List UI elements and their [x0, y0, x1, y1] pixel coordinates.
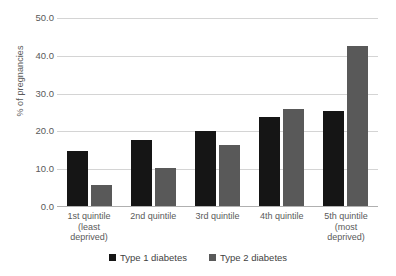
y-tick-label: 30.0: [20, 89, 54, 99]
bar[interactable]: [195, 131, 216, 207]
legend-item[interactable]: Type 2 diabetes: [209, 252, 287, 263]
bar[interactable]: [259, 117, 280, 207]
legend-swatch-icon: [209, 254, 216, 261]
bar-group: [185, 18, 249, 207]
y-tick-label: 0.0: [20, 202, 54, 212]
bar[interactable]: [155, 168, 176, 207]
x-tick-label: 2nd quintile: [121, 211, 185, 243]
bar-group: [314, 18, 378, 207]
x-tick-label: 4th quintile: [250, 211, 314, 243]
bar[interactable]: [67, 151, 88, 207]
legend: Type 1 diabetesType 2 diabetes: [0, 252, 396, 263]
x-tick-label: 1st quintile (least deprived): [57, 211, 121, 243]
plot-area: [57, 18, 378, 207]
y-tick-label: 50.0: [20, 13, 54, 23]
legend-item[interactable]: Type 1 diabetes: [109, 252, 187, 263]
y-tick-label: 20.0: [20, 126, 54, 136]
bar[interactable]: [347, 46, 368, 207]
bar[interactable]: [131, 140, 152, 207]
y-tick-label: 40.0: [20, 51, 54, 61]
y-axis-ticks: 50.040.030.020.010.00.0: [18, 0, 54, 276]
bar[interactable]: [91, 185, 112, 207]
bar-group: [121, 18, 185, 207]
bar[interactable]: [323, 111, 344, 207]
x-axis-labels: 1st quintile (least deprived)2nd quintil…: [57, 211, 378, 243]
x-tick-label: 3rd quintile: [185, 211, 249, 243]
bar[interactable]: [219, 145, 240, 207]
legend-swatch-icon: [109, 254, 116, 261]
x-axis-line: [57, 206, 378, 207]
bar[interactable]: [283, 109, 304, 207]
bar-chart: % of pregnancies 50.040.030.020.010.00.0…: [0, 0, 396, 276]
bar-group: [57, 18, 121, 207]
bar-group: [250, 18, 314, 207]
x-tick-label: 5th quintile (most deprived): [314, 211, 378, 243]
bar-groups: [57, 18, 378, 207]
legend-label: Type 2 diabetes: [220, 252, 287, 263]
legend-label: Type 1 diabetes: [120, 252, 187, 263]
y-tick-label: 10.0: [20, 164, 54, 174]
